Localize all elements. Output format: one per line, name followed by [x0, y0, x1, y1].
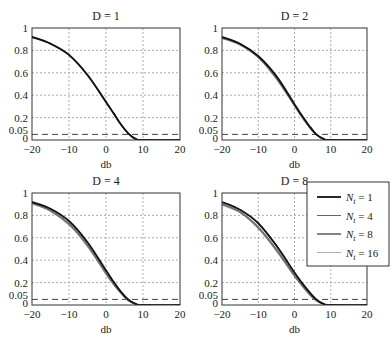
x-tick-label: −20: [23, 143, 41, 155]
subplot-4: D = 800.050.20.40.60.81−20−1001020dbNt =…: [199, 174, 389, 335]
subplot-3: D = 400.050.20.40.60.81−20−1001020db: [9, 174, 186, 335]
subplot-1: D = 100.050.20.40.60.81−20−1001020db: [9, 9, 186, 170]
y-tick-label: 0.6: [204, 232, 218, 244]
y-tick-label: 0.4: [204, 254, 218, 266]
subplot-title: D = 1: [92, 9, 119, 23]
x-tick-label: −20: [23, 308, 41, 320]
y-tick-label: 1: [213, 22, 219, 34]
y-tick-label: 0.4: [204, 89, 218, 101]
subplot-title: D = 4: [92, 174, 119, 188]
x-tick-label: 20: [175, 308, 187, 320]
x-axis-label: db: [289, 158, 301, 170]
x-tick-label: 0: [103, 143, 109, 155]
y-tick-label: 0.05: [199, 124, 219, 136]
x-tick-label: −10: [250, 308, 268, 320]
y-tick-label: 0.8: [14, 209, 28, 221]
y-tick-label: 0.05: [9, 289, 29, 301]
y-tick-label: 0.05: [199, 289, 219, 301]
legend: Nt = 1Nt = 4Nt = 8Nt = 16: [307, 182, 389, 266]
x-tick-label: 0: [292, 143, 298, 155]
subplot-title: D = 8: [281, 174, 308, 188]
y-tick-label: 0.2: [204, 277, 218, 289]
x-tick-label: 10: [325, 143, 337, 155]
y-tick-label: 0.05: [9, 124, 29, 136]
x-tick-label: 10: [138, 143, 150, 155]
y-tick-label: 0.2: [14, 277, 28, 289]
x-tick-label: 0: [292, 308, 298, 320]
x-axis-label: db: [101, 158, 113, 170]
y-tick-label: 0.8: [204, 44, 218, 56]
x-tick-label: 20: [362, 308, 374, 320]
y-tick-label: 1: [23, 22, 29, 34]
subplot-2: D = 200.050.20.40.60.81−20−1001020db: [199, 9, 373, 170]
y-tick-label: 0.4: [14, 89, 28, 101]
chart-canvas: D = 100.050.20.40.60.81−20−1001020dbD = …: [0, 0, 392, 345]
x-tick-label: −10: [60, 143, 78, 155]
x-tick-label: 10: [138, 308, 150, 320]
y-tick-label: 0.6: [14, 67, 28, 79]
x-tick-label: 10: [325, 308, 337, 320]
x-tick-label: −10: [250, 143, 268, 155]
y-tick-label: 0.8: [204, 209, 218, 221]
x-axis-label: db: [101, 323, 113, 335]
x-tick-label: 20: [362, 143, 374, 155]
x-axis-label: db: [289, 323, 301, 335]
x-tick-label: 20: [175, 143, 187, 155]
y-tick-label: 0.2: [14, 112, 28, 124]
y-tick-label: 0.2: [204, 112, 218, 124]
y-tick-label: 1: [23, 187, 29, 199]
figure: D = 100.050.20.40.60.81−20−1001020dbD = …: [0, 0, 392, 345]
y-tick-label: 0.8: [14, 44, 28, 56]
y-tick-label: 0.6: [204, 67, 218, 79]
x-tick-label: −20: [213, 143, 231, 155]
y-tick-label: 1: [213, 187, 219, 199]
x-tick-label: 0: [103, 308, 109, 320]
y-tick-label: 0.4: [14, 254, 28, 266]
x-tick-label: −20: [213, 308, 231, 320]
x-tick-label: −10: [60, 308, 78, 320]
subplot-title: D = 2: [281, 9, 308, 23]
y-tick-label: 0.6: [14, 232, 28, 244]
